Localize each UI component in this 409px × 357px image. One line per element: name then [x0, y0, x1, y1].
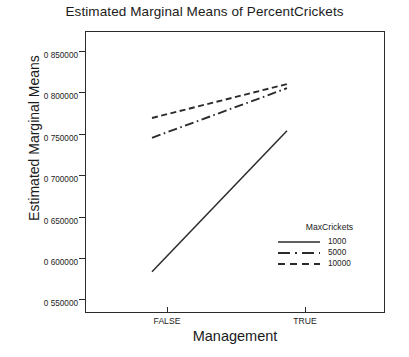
y-tick-label-5: 0 600000	[0, 258, 78, 267]
y-tick-1: 0 800000	[0, 92, 78, 101]
legend: MaxCrickets 1000 5000 100	[277, 222, 382, 269]
y-tick-3: 0 700000	[0, 175, 78, 184]
legend-swatch-dashed-icon	[277, 259, 321, 269]
y-tick-6: 0 550000	[0, 299, 78, 308]
plot-area	[85, 31, 385, 313]
y-tick-mark-1	[79, 92, 85, 93]
y-tick-mark-0	[79, 51, 85, 52]
y-tick-mark-4	[79, 217, 85, 218]
legend-label-1000: 1000	[321, 237, 346, 246]
y-tick-label-2: 0 750000	[0, 134, 78, 143]
legend-item-5000: 5000	[277, 247, 382, 258]
x-tick-mark-0	[167, 307, 168, 313]
y-tick-4: 0 650000	[0, 217, 78, 226]
legend-label-5000: 5000	[321, 248, 346, 257]
y-tick-label-3: 0 700000	[0, 175, 78, 184]
legend-label-10000: 10000	[321, 259, 351, 268]
legend-title: MaxCrickets	[277, 222, 382, 232]
y-tick-2: 0 750000	[0, 134, 78, 143]
y-tick-mark-3	[79, 175, 85, 176]
x-tick-label-false: FALSE	[132, 316, 202, 326]
legend-item-1000: 1000	[277, 236, 382, 247]
chart-title: Estimated Marginal Means of PercentCrick…	[0, 4, 409, 19]
y-tick-5: 0 600000	[0, 258, 78, 267]
legend-swatch-dashdot-icon	[277, 248, 321, 258]
y-tick-label-6: 0 550000	[0, 299, 78, 308]
y-tick-0: 0 850000	[0, 51, 78, 60]
legend-item-10000: 10000	[277, 258, 382, 269]
y-tick-label-4: 0 650000	[0, 217, 78, 226]
y-tick-mark-2	[79, 134, 85, 135]
chart-screenshot: Estimated Marginal Means of PercentCrick…	[0, 0, 409, 357]
x-axis-title: Management	[85, 328, 385, 344]
y-tick-mark-5	[79, 258, 85, 259]
y-tick-label-1: 0 800000	[0, 92, 78, 101]
x-tick-label-true: TRUE	[270, 316, 340, 326]
y-tick-label-0: 0 850000	[0, 51, 78, 60]
legend-swatch-solid-icon	[277, 237, 321, 247]
x-tick-mark-1	[305, 307, 306, 313]
y-tick-mark-6	[79, 299, 85, 300]
